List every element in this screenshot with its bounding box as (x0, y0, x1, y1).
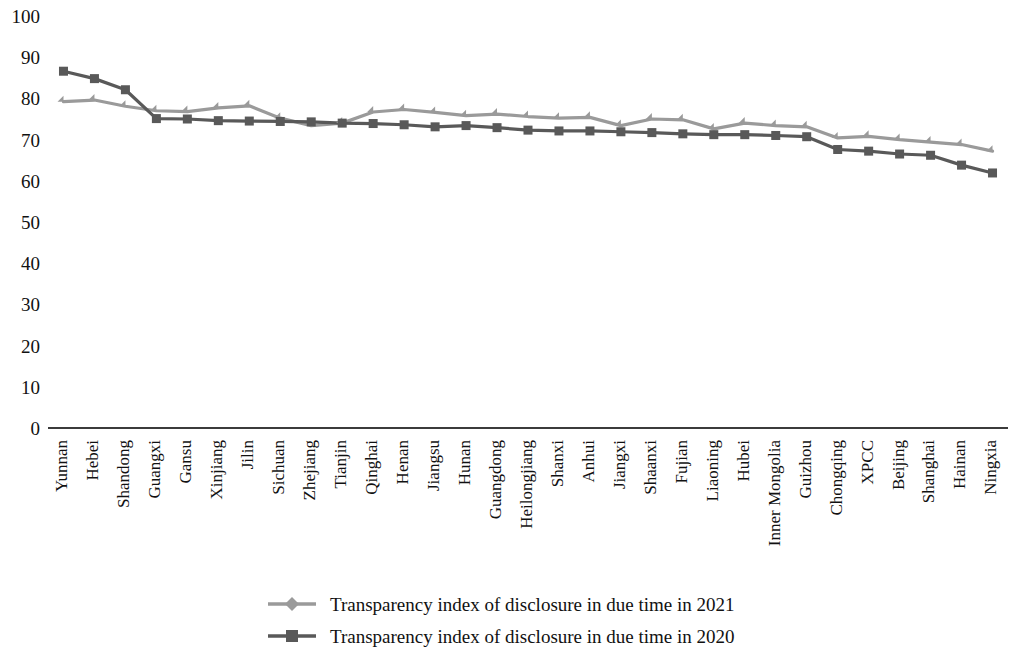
x-axis-tick-label: Liaoning (703, 440, 722, 502)
series-marker-square (214, 116, 223, 125)
x-axis-tick-label: Anhui (579, 440, 598, 483)
x-axis-tick-label: Guangxi (145, 440, 164, 499)
series-marker-diamond (863, 130, 869, 136)
x-axis-tick-label: Xinjiang (207, 440, 226, 500)
x-axis-tick-label: Chongqing (827, 440, 846, 516)
series-marker-diamond (894, 134, 900, 140)
y-axis-tick-label: 0 (31, 418, 41, 439)
series-marker-square (400, 120, 409, 129)
series-marker-diamond (212, 102, 218, 108)
x-axis-tick-label: Jiangsu (424, 440, 443, 492)
series-marker-square (616, 127, 625, 136)
series-marker-square (90, 74, 99, 83)
x-axis-tick-label: Heilongjiang (517, 440, 536, 529)
series-marker-diamond (801, 121, 807, 127)
x-axis-tick-label: Sichuan (269, 440, 288, 495)
x-axis-tick-label: Shaanxi (641, 440, 660, 495)
series-marker-square (493, 123, 502, 132)
x-axis-tick-label: Hainan (950, 440, 969, 490)
x-axis-tick-label: Ningxia (981, 440, 1000, 495)
x-axis-tick-label: Qinghai (362, 440, 381, 495)
series-marker-diamond (956, 139, 962, 145)
series-marker-square (183, 115, 192, 124)
chart-container: 1009080706050403020100 YunnanHebeiShando… (0, 0, 1020, 666)
y-axis-tick-label: 10 (21, 377, 40, 398)
y-axis-tick-label: 60 (21, 171, 40, 192)
x-axis-tick-label: Shanghai (919, 440, 938, 504)
series-marker-square (771, 131, 780, 140)
x-axis-tick-label: Hubei (734, 440, 753, 482)
series-marker-diamond (429, 106, 435, 112)
series-marker-square (647, 128, 656, 137)
x-axis-tick-label: Fujian (672, 440, 691, 484)
x-axis-tick-label: Jiangxi (610, 440, 629, 489)
y-axis-tick-label: 20 (21, 336, 40, 357)
y-axis-tick-label: 90 (21, 47, 40, 68)
y-axis-tick-labels: 1009080706050403020100 (12, 6, 41, 439)
y-axis-tick-label: 30 (21, 294, 40, 315)
series-marker-square (895, 150, 904, 159)
series-marker-square (121, 85, 130, 94)
y-axis-tick-label: 50 (21, 212, 40, 233)
series-marker-square (245, 117, 254, 126)
series-marker-diamond (181, 106, 187, 112)
series-marker-square (152, 114, 161, 123)
series-marker-square (833, 145, 842, 154)
series-marker-square (740, 130, 749, 139)
series-marker-diamond (646, 113, 652, 119)
series-marker-diamond (770, 120, 776, 126)
series-marker-diamond (367, 106, 373, 112)
legend-item-label: Transparency index of disclosure in due … (330, 594, 735, 615)
series-marker-diamond (491, 108, 497, 114)
series-marker-diamond (553, 112, 559, 118)
series-line-1 (63, 100, 992, 151)
series-line-2 (63, 71, 992, 173)
series-marker-square (709, 130, 718, 139)
series-marker-diamond (987, 145, 993, 151)
series-marker-square (802, 132, 811, 141)
series-marker-diamond (584, 111, 590, 117)
x-axis-tick-label: Inner Mongolia (765, 440, 784, 547)
legend-marker-square (286, 630, 298, 642)
series-marker-square (957, 161, 966, 170)
series-marker-square (462, 121, 471, 130)
x-axis-tick-label: Guangdong (486, 440, 505, 520)
series-marker-diamond (522, 111, 528, 117)
legend-item-label: Transparency index of disclosure in due … (330, 626, 735, 647)
x-axis-tick-label: Shandong (114, 440, 133, 509)
series-marker-diamond (925, 136, 931, 142)
x-axis-tick-label: Hunan (455, 440, 474, 486)
y-axis-tick-label: 70 (21, 130, 40, 151)
y-axis-tick-label: 40 (21, 253, 40, 274)
x-axis-tick-label: Beijing (889, 440, 908, 491)
series-marker-square (431, 122, 440, 131)
x-axis-tick-label: Zhejiang (300, 440, 319, 501)
series-marker-square (554, 126, 563, 135)
series-marker-square (307, 117, 316, 126)
series-marker-square (59, 67, 68, 76)
series-marker-diamond (243, 100, 249, 106)
series-marker-diamond (677, 114, 683, 120)
series-markers (57, 67, 997, 178)
series-marker-square (276, 117, 285, 126)
series-marker-square (369, 119, 378, 128)
x-axis-tick-label: Henan (393, 440, 412, 485)
series-marker-diamond (57, 96, 63, 102)
x-axis-tick-label: Hebei (83, 440, 102, 481)
series-marker-square (524, 126, 533, 135)
x-axis-tick-label: Tianjin (331, 440, 350, 489)
series-marker-square (864, 147, 873, 156)
series-marker-diamond (88, 94, 94, 100)
series-marker-diamond (398, 104, 404, 110)
x-axis-tick-label: XPCC (858, 440, 877, 484)
series-marker-square (926, 151, 935, 160)
y-axis-tick-label: 100 (12, 6, 41, 27)
legend-marker-diamond (285, 597, 299, 611)
series-marker-square (988, 168, 997, 177)
line-chart: 1009080706050403020100 YunnanHebeiShando… (0, 0, 1020, 666)
x-axis-tick-label: Yunnan (52, 440, 71, 492)
x-axis-tick-label: Gansu (176, 440, 195, 484)
x-axis-tick-label: Shanxi (548, 440, 567, 488)
series-marker-diamond (119, 100, 125, 106)
series-marker-diamond (460, 110, 466, 116)
